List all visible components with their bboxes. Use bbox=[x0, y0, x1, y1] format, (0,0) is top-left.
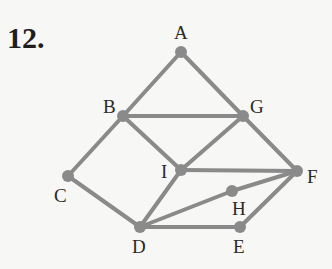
edge-A-G bbox=[181, 52, 243, 116]
node-label-B: B bbox=[103, 96, 116, 117]
node-label-C: C bbox=[54, 185, 67, 206]
node-F bbox=[291, 165, 303, 177]
edge-I-F bbox=[181, 170, 297, 171]
node-label-E: E bbox=[233, 236, 245, 257]
node-H bbox=[226, 185, 238, 197]
edge-C-D bbox=[68, 176, 140, 227]
node-label-D: D bbox=[132, 236, 146, 257]
node-I bbox=[175, 164, 187, 176]
graph-edges bbox=[68, 52, 297, 227]
node-label-I: I bbox=[161, 161, 167, 182]
edge-B-C bbox=[68, 116, 123, 176]
graph-diagram: 12. ABGICDFHE bbox=[0, 0, 332, 269]
node-label-G: G bbox=[250, 96, 264, 117]
node-B bbox=[117, 110, 129, 122]
node-A bbox=[175, 46, 187, 58]
node-label-H: H bbox=[232, 198, 246, 219]
node-E bbox=[234, 221, 246, 233]
edge-G-I bbox=[181, 116, 243, 170]
node-G bbox=[237, 110, 249, 122]
edge-A-B bbox=[123, 52, 181, 116]
problem-number: 12. bbox=[7, 21, 45, 54]
node-D bbox=[134, 221, 146, 233]
node-label-A: A bbox=[174, 22, 188, 43]
graph-figure: 12. ABGICDFHE bbox=[0, 0, 332, 269]
edge-B-I bbox=[123, 116, 181, 170]
node-C bbox=[62, 170, 74, 182]
node-label-F: F bbox=[307, 166, 318, 187]
edge-G-F bbox=[243, 116, 297, 171]
